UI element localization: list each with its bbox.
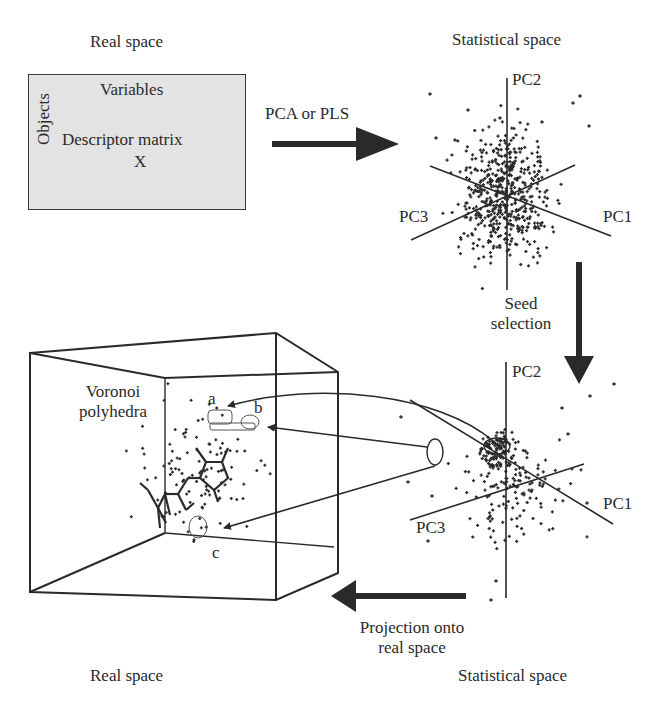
real-space-cube (30, 333, 338, 600)
voronoi-cell-c (189, 516, 207, 538)
voronoi-cell-a (208, 410, 232, 424)
real-space-points (125, 382, 272, 543)
seed-selection-arrow (564, 262, 594, 384)
molecule-structure (140, 448, 228, 528)
projection-arrow (331, 580, 466, 612)
bottom-scatter-points (399, 382, 616, 602)
diagram-graphics (0, 0, 665, 709)
pca-arrow (272, 127, 399, 161)
voronoi-cell-b (241, 415, 259, 429)
projection-pointers (224, 393, 493, 528)
bottom-pca-axes (410, 362, 613, 598)
top-scatter-points (428, 92, 591, 290)
seed-ellipse-left (427, 439, 443, 465)
